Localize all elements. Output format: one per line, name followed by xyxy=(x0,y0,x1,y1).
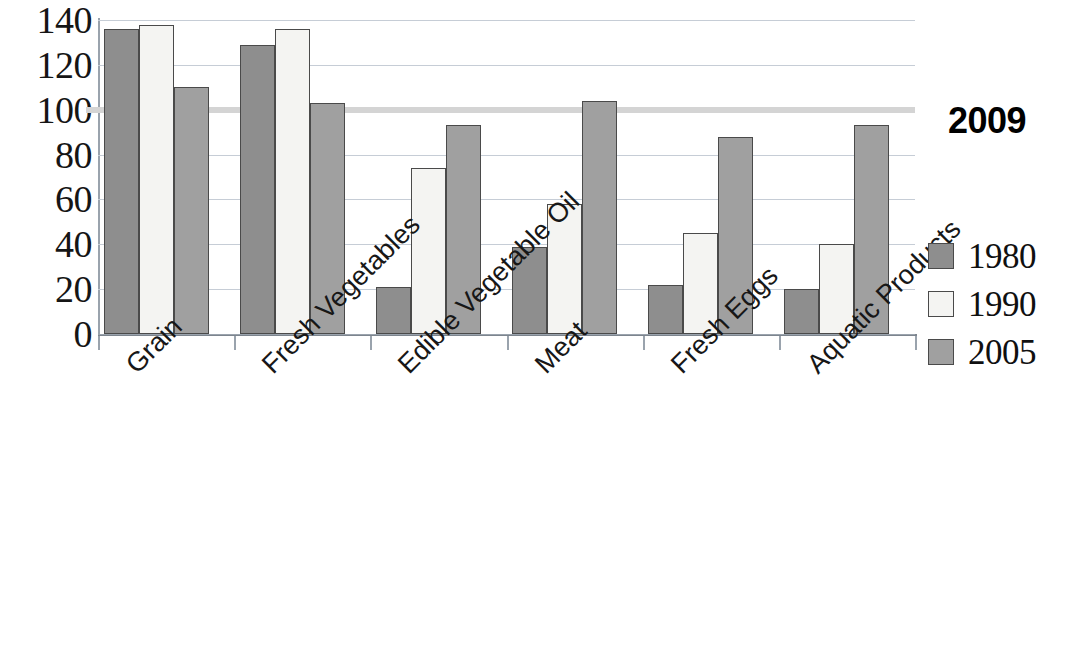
x-axis-tick xyxy=(234,336,236,350)
bar-group xyxy=(512,20,617,334)
bar xyxy=(139,25,174,335)
legend-label: 2005 xyxy=(968,335,1036,370)
legend-swatch-icon xyxy=(928,291,954,317)
x-axis-tick xyxy=(643,336,645,350)
legend-label: 1980 xyxy=(968,239,1036,274)
y-tick-label: 100 xyxy=(0,91,92,129)
y-tick-label: 80 xyxy=(0,136,92,174)
y-axis-labels: 020406080100120140 xyxy=(0,0,92,647)
legend-swatch-icon xyxy=(928,339,954,365)
legend-label: 1990 xyxy=(968,287,1036,322)
legend-item-1980[interactable]: 1980 xyxy=(928,232,1078,280)
bar xyxy=(582,101,617,334)
x-axis-tick xyxy=(507,336,509,350)
bar xyxy=(174,87,209,334)
legend-swatch-icon xyxy=(928,243,954,269)
bar xyxy=(376,287,411,334)
reference-line-label-2009: 2009 xyxy=(948,100,1026,142)
legend-item-2005[interactable]: 2005 xyxy=(928,328,1078,376)
y-tick-label: 140 xyxy=(0,1,92,39)
legend: 198019902005 xyxy=(928,232,1078,376)
x-axis-tick xyxy=(915,336,917,350)
x-axis-tick xyxy=(370,336,372,350)
x-axis-tick xyxy=(779,336,781,350)
bar-group xyxy=(104,20,209,334)
y-tick-label: 60 xyxy=(0,180,92,218)
y-tick-label: 0 xyxy=(0,315,92,353)
bar xyxy=(104,29,139,334)
bar xyxy=(648,285,683,334)
bar-chart: 020406080100120140 GrainFresh Vegetables… xyxy=(0,0,1084,647)
bar xyxy=(784,289,819,334)
plot-area xyxy=(98,20,915,334)
gridline xyxy=(98,334,915,335)
y-tick-label: 40 xyxy=(0,225,92,263)
x-axis-tick xyxy=(98,336,100,350)
bar xyxy=(240,45,275,334)
y-tick-label: 20 xyxy=(0,270,92,308)
y-tick-label: 120 xyxy=(0,46,92,84)
bar xyxy=(275,29,310,334)
legend-item-1990[interactable]: 1990 xyxy=(928,280,1078,328)
